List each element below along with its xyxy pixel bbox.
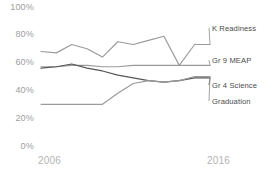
series-label-gr-4-science: Gr 4 Science (212, 81, 257, 90)
series-label-gr-9-meap: Gr 9 MEAP (212, 56, 251, 65)
series-line-graduation (41, 77, 210, 105)
series-label-k-readiness: K Readiness (212, 24, 256, 33)
line-chart: 100% 80% 60% 40% 20% 0% 2006 2016 K Read… (0, 0, 280, 178)
series-label-graduation: Graduation (212, 97, 251, 106)
leader-line-gr-9-meap (209, 60, 210, 65)
leader-line-graduation (209, 77, 210, 102)
series-line-gr-9-meap (41, 65, 210, 66)
leader-line-k-readiness (209, 28, 210, 45)
series-line-k-readiness (41, 36, 210, 65)
